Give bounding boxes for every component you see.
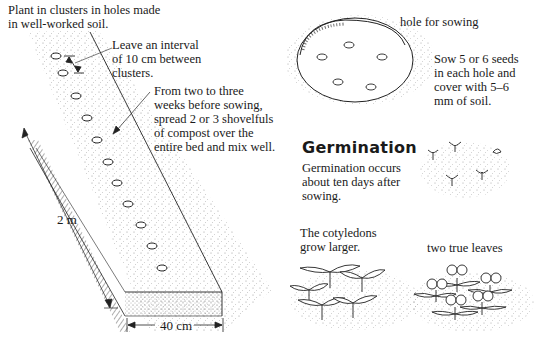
- caption-sow-seeds: Sow 5 or 6 seeds in each hole and cover …: [434, 52, 519, 108]
- caption-plant-in-clusters: Plant in clusters in holes made in well-…: [8, 3, 160, 31]
- true-leaves-illustration: [410, 265, 534, 332]
- caption-cotyledons: The cotyledons grow larger.: [300, 226, 377, 254]
- caption-two-true-leaves: two true leaves: [427, 241, 503, 255]
- label-hole-for-sowing: hole for sowing: [400, 15, 478, 29]
- heading-germination: Germination: [302, 138, 417, 157]
- label-width-40cm: 40 cm: [160, 319, 192, 333]
- germination-illustration: [420, 142, 510, 198]
- label-length-2m: 2 m: [57, 213, 77, 227]
- cotyledons-illustration: [290, 265, 420, 330]
- caption-interval: Leave an interval of 10 cm between clust…: [112, 38, 201, 80]
- caption-germination: Germination occurs about ten days after …: [302, 161, 401, 203]
- caption-compost: From two to three weeks before sowing, s…: [154, 84, 275, 154]
